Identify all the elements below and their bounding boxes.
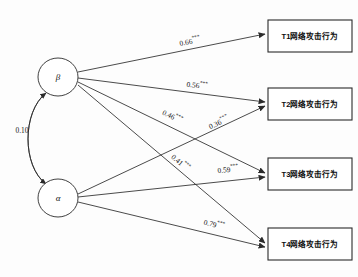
observed-node-t1: T1网络攻击行为 <box>268 20 352 52</box>
coefficient-label-beta-t4: 0.41*** <box>170 151 193 173</box>
observed-node-t4: T4网络攻击行为 <box>268 228 352 260</box>
path-arrow-beta-t1 <box>78 34 265 72</box>
observed-node-t3: T3网络攻击行为 <box>268 158 352 190</box>
observed-label-t1: T1网络攻击行为 <box>282 31 339 41</box>
coefficient-value-beta-t4: 0.41 <box>170 152 186 167</box>
latent-node-alpha: α <box>38 179 78 217</box>
coefficient-label-beta-t2: 0.56*** <box>186 78 208 91</box>
coefficient-label-alpha-t3: 0.59*** <box>217 162 239 175</box>
coefficient-label-beta-t1: 0.66*** <box>178 33 201 48</box>
covariance-curve-up <box>28 93 46 184</box>
coefficient-value-alpha-t4: 0.79 <box>203 217 218 229</box>
path-arrow-alpha-t4 <box>78 202 265 247</box>
path-lines-layer <box>78 34 265 247</box>
coefficient-label-alpha-t4: 0.79*** <box>203 216 226 231</box>
covariance-value: 0.10 <box>16 126 29 135</box>
coefficient-significance-alpha-t1: *** <box>218 112 228 121</box>
path-coefficient-labels-layer: 0.66***0.56***0.46***0.41***0.36***0.59*… <box>161 33 239 231</box>
coefficient-label-beta-t3: 0.46*** <box>161 106 185 125</box>
observed-label-t3: T3网络攻击行为 <box>282 169 339 179</box>
coefficient-value-beta-t3: 0.46 <box>161 108 177 122</box>
coefficient-significance-alpha-t3: *** <box>230 162 239 169</box>
observed-nodes-layer: T1网络攻击行为T2网络攻击行为T3网络攻击行为T4网络攻击行为 <box>268 20 352 260</box>
coefficient-significance-beta-t2: *** <box>199 80 208 87</box>
coefficient-value-alpha-t3: 0.59 <box>217 164 231 174</box>
diagram-canvas: 0.10 βα T1网络攻击行为T2网络攻击行为T3网络攻击行为T4网络攻击行为… <box>0 0 358 277</box>
path-diagram-figure: 0.10 βα T1网络攻击行为T2网络攻击行为T3网络攻击行为T4网络攻击行为… <box>0 0 358 277</box>
path-arrow-beta-t2 <box>78 78 265 102</box>
covariance-curve-down <box>28 93 46 184</box>
coefficient-significance-beta-t1: *** <box>191 33 200 41</box>
coefficient-significance-alpha-t4: *** <box>217 219 227 227</box>
observed-label-t4: T4网络攻击行为 <box>282 239 339 249</box>
latent-nodes-layer: βα <box>38 58 78 217</box>
latent-node-beta: β <box>38 58 78 96</box>
latent-label-beta: β <box>55 72 61 82</box>
coefficient-value-beta-t2: 0.56 <box>186 79 200 90</box>
path-arrow-alpha-t3 <box>78 177 265 197</box>
latent-label-alpha: α <box>56 193 61 203</box>
covariance-label: 0.10 <box>16 126 29 135</box>
coefficient-significance-beta-t3: *** <box>175 112 185 121</box>
observed-node-t2: T2网络攻击行为 <box>268 88 352 120</box>
observed-label-t2: T2网络攻击行为 <box>282 99 339 109</box>
covariance-arrow-group: 0.10 <box>16 93 46 184</box>
coefficient-significance-beta-t4: *** <box>182 159 192 169</box>
